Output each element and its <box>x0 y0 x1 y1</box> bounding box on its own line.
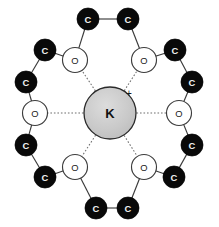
coordination-bond-K-O1 <box>82 71 95 91</box>
atom-label-C4: C <box>189 77 196 88</box>
bond-C6-O4 <box>155 171 164 174</box>
atom-label-C9: C <box>42 172 49 183</box>
atom-label-C12: C <box>42 45 49 56</box>
atom-label-O3: O <box>175 108 182 119</box>
atom-label-O6: O <box>31 108 38 119</box>
bond-O3-C5 <box>184 124 189 135</box>
atom-label-C6: C <box>171 172 178 183</box>
bond-C10-O6 <box>29 125 32 135</box>
atom-label-C7: C <box>125 203 132 214</box>
bond-C2-O2 <box>132 29 140 49</box>
bond-O1-C1 <box>79 29 85 49</box>
bond-C9-C10 <box>31 154 39 168</box>
atom-label-potassium: K <box>105 106 115 121</box>
bond-O5-C9 <box>55 171 64 174</box>
coordination-bond-K-O4 <box>124 135 137 156</box>
bond-O6-C11 <box>29 92 32 101</box>
atom-label-C8: C <box>93 203 100 214</box>
atom-label-C2: C <box>125 14 132 25</box>
atom-label-O1: O <box>71 55 78 66</box>
atom-label-C1: C <box>85 14 92 25</box>
bond-C8-O5 <box>80 178 91 199</box>
crown-ether-complex-diagram: KOOOOOOCCCCCCCCCCCC + <box>0 0 219 227</box>
bond-C5-C6 <box>179 154 187 168</box>
atom-label-O4: O <box>140 162 147 173</box>
bond-C12-O1 <box>55 53 64 56</box>
bond-C11-C12 <box>31 59 39 73</box>
bond-O4-C7 <box>132 178 140 198</box>
diagram-canvas: KOOOOOOCCCCCCCCCCCC + <box>0 0 219 227</box>
cation-charge-marker: + <box>126 88 132 99</box>
atom-label-O2: O <box>140 55 147 66</box>
atom-label-C11: C <box>23 77 30 88</box>
atom-label-C5: C <box>189 140 196 151</box>
charge-marker-layer: + <box>126 88 132 99</box>
atom-layer: KOOOOOOCCCCCCCCCCCC <box>15 8 203 219</box>
atom-label-C10: C <box>23 140 30 151</box>
coordination-bond-K-O5 <box>82 135 96 156</box>
atom-label-C3: C <box>172 45 179 56</box>
bond-C4-O3 <box>184 92 188 102</box>
atom-label-O5: O <box>71 162 78 173</box>
bond-O2-C3 <box>155 53 165 56</box>
bond-C3-C4 <box>180 59 187 72</box>
